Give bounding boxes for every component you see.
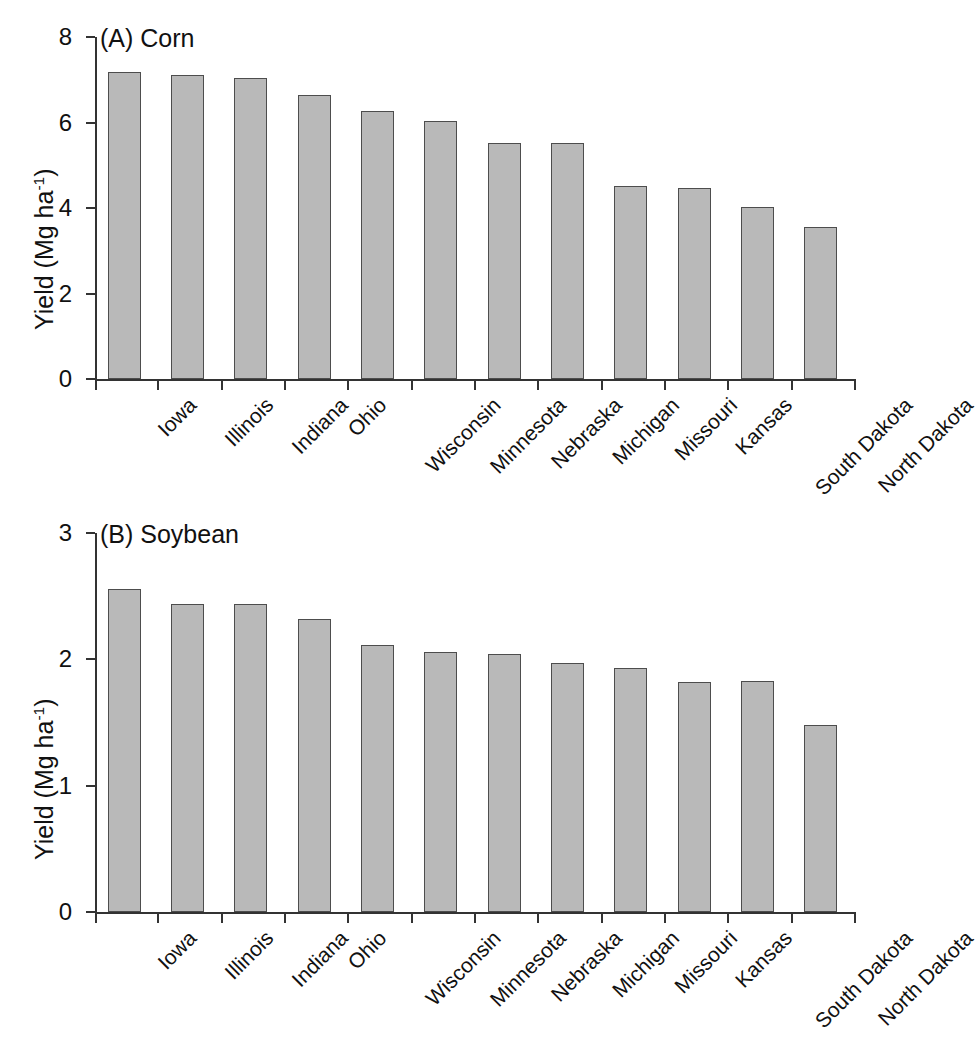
x-tick-b-8 xyxy=(664,912,666,923)
x-tick-b-4 xyxy=(411,912,413,923)
y-tick-b-0: 0 xyxy=(86,911,95,913)
y-tick-label-b-1: 1 xyxy=(59,772,72,800)
plot-area-b: 0123IowaIllinoisIndianaOhioWisconsinMinn… xyxy=(95,533,855,912)
y-axis-title-b: Yield (Mg ha-1) xyxy=(30,698,59,860)
x-axis-label-b-indiana: Indiana xyxy=(287,926,353,992)
x-tick-a-2 xyxy=(284,379,286,390)
bar-b-illinois xyxy=(171,604,204,912)
bar-b-south-dakota xyxy=(741,681,774,912)
y-tick-a-0: 0 xyxy=(86,378,95,380)
x-tick-b-1 xyxy=(221,912,223,923)
y-tick-a-8: 8 xyxy=(86,36,95,38)
y-tick-label-a-8: 8 xyxy=(59,23,72,51)
bar-b-kansas xyxy=(678,682,711,912)
bar-a-kansas xyxy=(678,188,711,379)
x-axis-label-b-ohio: Ohio xyxy=(343,926,391,974)
bar-a-nebraska xyxy=(488,143,521,379)
y-tick-label-b-0: 0 xyxy=(59,898,72,926)
x-axis-label-b-iowa: Iowa xyxy=(153,926,201,974)
y-axis-title-b-text: Yield (Mg ha xyxy=(30,721,58,860)
bar-b-north-dakota xyxy=(804,725,837,912)
plot-area-a: 02468IowaIllinoisIndianaOhioWisconsinMin… xyxy=(95,37,855,379)
y-tick-a-4: 4 xyxy=(86,207,95,209)
bar-b-michigan xyxy=(551,663,584,912)
x-tick-a-4 xyxy=(411,379,413,390)
bar-a-south-dakota xyxy=(741,207,774,379)
bar-a-iowa xyxy=(108,72,141,379)
bar-b-nebraska xyxy=(488,654,521,912)
x-tick-a-5 xyxy=(474,379,476,390)
x-tick-a-11 xyxy=(854,379,856,390)
x-tick-a-6 xyxy=(537,379,539,390)
bar-a-wisconsin xyxy=(361,111,394,379)
y-tick-label-a-2: 2 xyxy=(59,280,72,308)
y-axis-title-a-exponent: -1 xyxy=(30,177,47,191)
y-axis-title-a-paren: ) xyxy=(30,168,58,176)
x-tick-b-0 xyxy=(157,912,159,923)
y-tick-label-a-0: 0 xyxy=(59,365,72,393)
x-tick-a-0 xyxy=(157,379,159,390)
bar-a-ohio xyxy=(298,95,331,379)
y-tick-b-3: 3 xyxy=(86,532,95,534)
panel-b-soybean: Yield (Mg ha-1) (B) Soybean 0123IowaIlli… xyxy=(0,500,884,1060)
x-tick-b-10 xyxy=(791,912,793,923)
y-tick-label-b-2: 2 xyxy=(59,645,72,673)
bar-b-wisconsin xyxy=(361,645,394,912)
y-tick-a-2: 2 xyxy=(86,293,95,295)
bar-a-missouri xyxy=(614,186,647,379)
y-axis-title-b-paren: ) xyxy=(30,698,58,706)
panel-a-corn: Yield (Mg ha-1) (A) Corn 02468IowaIllino… xyxy=(0,0,884,520)
x-tick-a-8 xyxy=(664,379,666,390)
x-tick-b-6 xyxy=(537,912,539,923)
x-tick-a-origin xyxy=(95,379,97,390)
x-tick-b-9 xyxy=(727,912,729,923)
y-axis-title-a: Yield (Mg ha-1) xyxy=(30,168,59,330)
bar-a-illinois xyxy=(171,75,204,379)
bar-a-indiana xyxy=(234,78,267,379)
x-tick-b-3 xyxy=(347,912,349,923)
x-axis-label-b-illinois: Illinois xyxy=(221,926,279,984)
x-axis-label-b-missouri: Missouri xyxy=(670,926,742,998)
y-axis-line-a xyxy=(95,37,97,381)
bar-a-north-dakota xyxy=(804,227,837,379)
y-tick-b-2: 2 xyxy=(86,658,95,660)
y-tick-b-1: 1 xyxy=(86,785,95,787)
x-axis-label-a-kansas: Kansas xyxy=(731,393,798,460)
x-tick-a-3 xyxy=(347,379,349,390)
bar-a-michigan xyxy=(551,143,584,379)
x-tick-b-11 xyxy=(854,912,856,923)
x-tick-a-7 xyxy=(601,379,603,390)
x-axis-label-a-indiana: Indiana xyxy=(287,393,353,459)
y-tick-label-b-3: 3 xyxy=(59,519,72,547)
y-axis-title-a-text: Yield (Mg ha xyxy=(30,191,58,330)
y-tick-a-6: 6 xyxy=(86,122,95,124)
x-tick-a-1 xyxy=(221,379,223,390)
x-tick-b-origin xyxy=(95,912,97,923)
bar-b-ohio xyxy=(298,619,331,912)
bar-b-minnesota xyxy=(424,652,457,912)
bar-b-indiana xyxy=(234,604,267,912)
x-tick-a-10 xyxy=(791,379,793,390)
y-axis-line-b xyxy=(95,533,97,914)
y-tick-label-a-6: 6 xyxy=(59,109,72,137)
x-axis-label-a-ohio: Ohio xyxy=(343,393,391,441)
x-tick-b-5 xyxy=(474,912,476,923)
x-tick-a-9 xyxy=(727,379,729,390)
x-axis-label-a-iowa: Iowa xyxy=(153,393,201,441)
x-tick-b-2 xyxy=(284,912,286,923)
y-tick-label-a-4: 4 xyxy=(59,194,72,222)
y-axis-title-b-exponent: -1 xyxy=(30,707,47,721)
x-axis-label-b-kansas: Kansas xyxy=(731,926,798,993)
bar-b-iowa xyxy=(108,589,141,912)
x-axis-label-a-illinois: Illinois xyxy=(221,393,279,451)
x-tick-b-7 xyxy=(601,912,603,923)
bar-b-missouri xyxy=(614,668,647,912)
x-axis-label-a-missouri: Missouri xyxy=(670,393,742,465)
bar-a-minnesota xyxy=(424,121,457,379)
